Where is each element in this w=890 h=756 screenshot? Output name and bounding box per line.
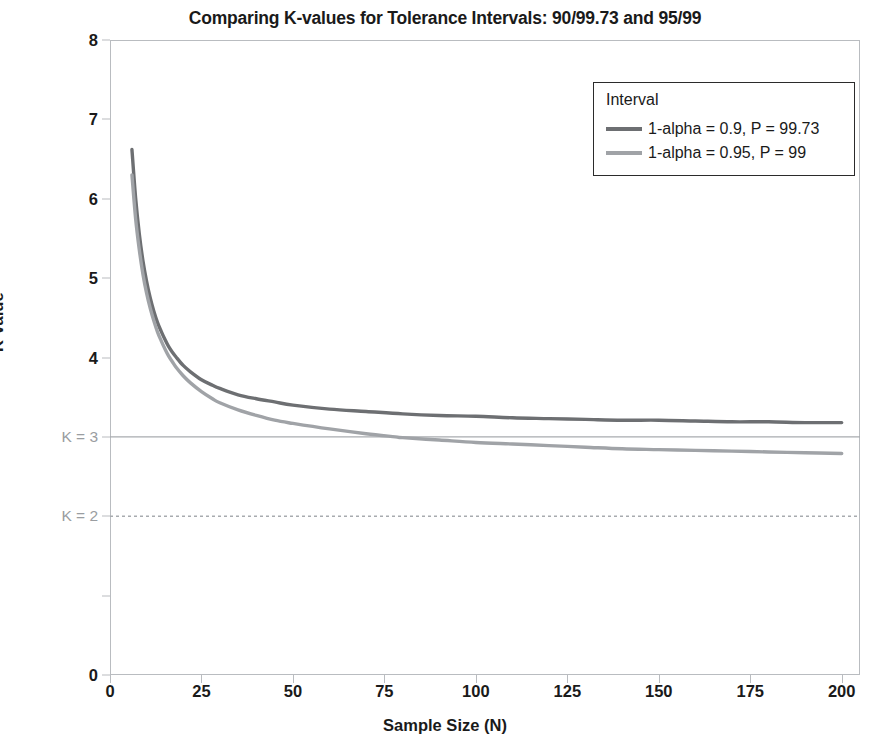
y-tick-mark [102,357,110,358]
series-line [132,175,842,454]
y-tick-label: 8 [0,31,98,50]
chart-container: Comparing K-values for Tolerance Interva… [0,0,890,756]
y-tick-mark [102,278,110,279]
y-tick-mark [102,40,110,41]
x-tick-label: 200 [828,682,856,701]
legend-box: Interval 1-alpha = 0.9, P = 99.73 1-alph… [593,82,855,176]
y-tick-mark [102,675,110,676]
x-tick-label: 25 [192,682,210,701]
legend-line-swatch [606,127,642,131]
y-tick-mark [102,436,110,437]
y-tick-label: 4 [0,348,98,367]
x-tick-label: 175 [736,682,764,701]
y-reference-label: K = 3 [0,428,98,446]
chart-title: Comparing K-values for Tolerance Interva… [0,8,890,29]
y-tick-mark [102,516,110,517]
x-tick-label: 0 [105,682,114,701]
x-tick-label: 100 [462,682,490,701]
y-axis-label: K Value [0,292,7,352]
x-tick-label: 125 [554,682,582,701]
x-tick-label: 75 [375,682,393,701]
legend-item[interactable]: 1-alpha = 0.95, P = 99 [606,141,854,165]
y-tick-label: 7 [0,110,98,129]
legend-item-label: 1-alpha = 0.95, P = 99 [648,145,806,161]
legend-line-swatch [606,151,642,155]
y-tick-label: 5 [0,269,98,288]
series-line [132,150,842,423]
y-tick-mark [102,198,110,199]
y-tick-label: 6 [0,189,98,208]
y-tick-mark [102,595,110,596]
y-reference-label: K = 2 [0,507,98,525]
y-tick-label: 0 [0,666,98,685]
legend-title: Interval [606,91,854,109]
legend-item-label: 1-alpha = 0.9, P = 99.73 [648,121,819,137]
legend-item[interactable]: 1-alpha = 0.9, P = 99.73 [606,117,854,141]
x-axis-label: Sample Size (N) [0,716,890,735]
x-tick-label: 50 [284,682,302,701]
y-tick-mark [102,119,110,120]
x-tick-label: 150 [645,682,673,701]
